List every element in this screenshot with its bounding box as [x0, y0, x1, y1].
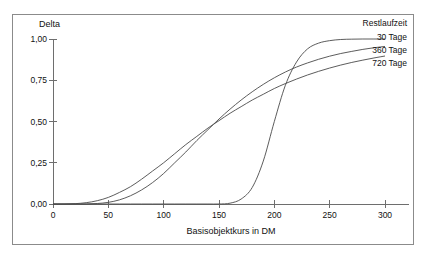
delta-line-chart: Delta 0,000,250,500,751,00 0501001502002…: [13, 15, 415, 246]
x-tick-label: 250: [323, 210, 337, 220]
legend-title: Restlaufzeit: [363, 18, 408, 28]
curve-group: [53, 39, 385, 204]
chart-figure: Delta 0,000,250,500,751,00 0501001502002…: [12, 14, 414, 245]
x-tick-label: 50: [104, 210, 114, 220]
x-tick-label-group: 050100150200250300: [51, 210, 393, 220]
legend-item-label: 720 Tage: [372, 58, 407, 68]
y-tick-label: 1,00: [30, 34, 47, 44]
y-axis-title-group: Delta: [39, 19, 60, 29]
curve-series-0: [53, 39, 385, 204]
curve-series-2: [53, 56, 385, 204]
y-tick-label: 0,75: [30, 75, 47, 85]
y-tick-label: 0,00: [30, 199, 47, 209]
x-tick-label: 300: [378, 210, 392, 220]
legend-item-label: 30 Tage: [377, 32, 407, 42]
legend-item-label: 360 Tage: [372, 45, 407, 55]
x-tick-label: 150: [212, 210, 226, 220]
x-tick-label: 100: [157, 210, 171, 220]
curve-series-1: [53, 46, 385, 204]
y-tick-label: 0,50: [30, 117, 47, 127]
legend: Restlaufzeit 30 Tage360 Tage720 Tage: [363, 18, 408, 68]
x-tick-label: 0: [51, 210, 56, 220]
tick-mark-group: [49, 39, 385, 208]
x-tick-label: 200: [267, 210, 281, 220]
y-axis-title: Delta: [39, 19, 60, 29]
y-tick-label: 0,25: [30, 158, 47, 168]
x-axis-title: Basisobjektkurs in DM: [186, 226, 275, 236]
y-tick-label-group: 0,000,250,500,751,00: [30, 34, 47, 209]
